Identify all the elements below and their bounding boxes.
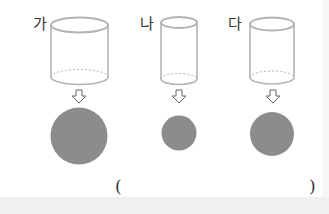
answer-close-paren: ) — [309, 176, 316, 196]
down-arrow-icon — [266, 90, 280, 103]
answer-blank[interactable] — [125, 176, 305, 196]
label-a: 가 — [33, 17, 47, 32]
cylinder-c — [250, 18, 294, 85]
cylinder-a — [51, 18, 108, 85]
down-arrow-icon — [172, 90, 186, 103]
label-c: 다 — [228, 17, 242, 32]
circle-c — [250, 112, 294, 156]
label-b: 나 — [140, 17, 154, 32]
answer-open-paren: ( — [115, 176, 122, 196]
circle-b — [162, 116, 197, 151]
cylinder-b — [161, 17, 197, 85]
down-arrow-icon — [72, 90, 86, 103]
circle-a — [51, 108, 108, 165]
